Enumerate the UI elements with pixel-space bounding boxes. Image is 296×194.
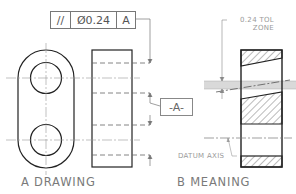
parallelism-symbol: // [51,12,71,28]
front-view-obround [6,43,86,175]
fcf-leader [134,19,160,166]
tolerance-value: Ø0.24 [71,12,117,28]
caption-a-drawing: A DRAWING [21,175,96,189]
tol-zone-label: 0.24 TOL ZONE [228,16,274,32]
datum-reference: A [117,12,135,28]
caption-b-meaning: B MEANING [177,175,250,189]
tol-zone-label-line1: 0.24 TOL [228,16,274,24]
feature-control-frame: // Ø0.24 A [50,11,136,29]
datum-axis-label: DATUM AXIS [178,152,224,160]
datum-identifier: -A- [160,98,193,116]
side-view [86,50,150,167]
tol-zone-label-line2: ZONE [228,24,274,32]
meaning-section-view [204,20,296,167]
